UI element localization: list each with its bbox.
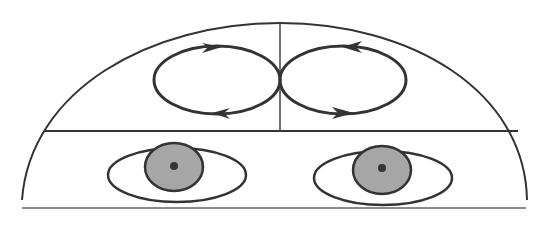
right-circulation-loop <box>280 41 406 119</box>
diagram-canvas <box>0 0 556 228</box>
left-eye <box>108 143 246 202</box>
left-eye-pupil <box>170 162 178 170</box>
left-circulation-loop <box>154 43 280 119</box>
head-diagram <box>0 0 556 228</box>
right-eye-pupil <box>378 164 386 172</box>
right-eye <box>314 146 452 205</box>
